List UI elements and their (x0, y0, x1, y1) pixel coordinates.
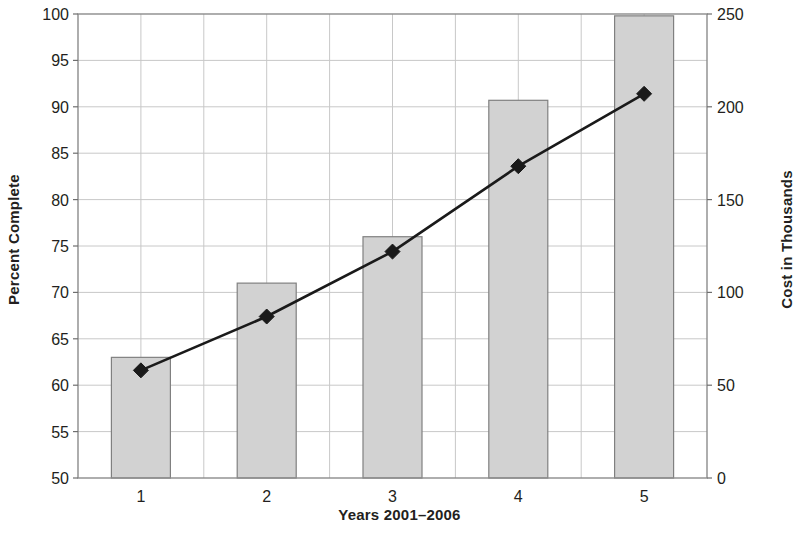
chart-plot-area: 50556065707580859095100 050100150200250 … (0, 0, 799, 537)
y-axis-right-tick-label: 150 (717, 192, 744, 209)
y-axis-right-ticks: 050100150200250 (707, 6, 744, 487)
x-axis-category-labels: 12345 (136, 488, 648, 505)
y-axis-left-tick-label: 60 (51, 377, 69, 394)
y-axis-left-tick-label: 50 (51, 470, 69, 487)
y-axis-left-tick-label: 55 (51, 424, 69, 441)
y-axis-right-tick-label: 250 (717, 6, 744, 23)
x-axis-tick-label: 5 (640, 488, 649, 505)
y-axis-right-tick-label: 200 (717, 99, 744, 116)
y-axis-left-ticks: 50556065707580859095100 (42, 6, 78, 487)
y-axis-right-tick-label: 50 (717, 377, 735, 394)
chart-container: Percent Complete Cost in Thousands Years… (0, 0, 799, 537)
y-axis-left-tick-label: 75 (51, 238, 69, 255)
y-axis-left-tick-label: 85 (51, 145, 69, 162)
x-axis-tick-label: 2 (262, 488, 271, 505)
y-axis-right-tick-label: 100 (717, 284, 744, 301)
bar (615, 16, 674, 478)
y-axis-left-tick-label: 80 (51, 192, 69, 209)
x-axis-tick-label: 3 (388, 488, 397, 505)
y-axis-left-tick-label: 100 (42, 6, 69, 23)
y-axis-left-tick-label: 65 (51, 331, 69, 348)
y-axis-left-tick-label: 95 (51, 52, 69, 69)
x-axis-tick-label: 1 (136, 488, 145, 505)
bar (363, 237, 422, 478)
bar (489, 100, 548, 478)
x-axis-tick-label: 4 (514, 488, 523, 505)
y-axis-left-tick-label: 90 (51, 99, 69, 116)
y-axis-right-tick-label: 0 (717, 470, 726, 487)
y-axis-left-tick-label: 70 (51, 284, 69, 301)
